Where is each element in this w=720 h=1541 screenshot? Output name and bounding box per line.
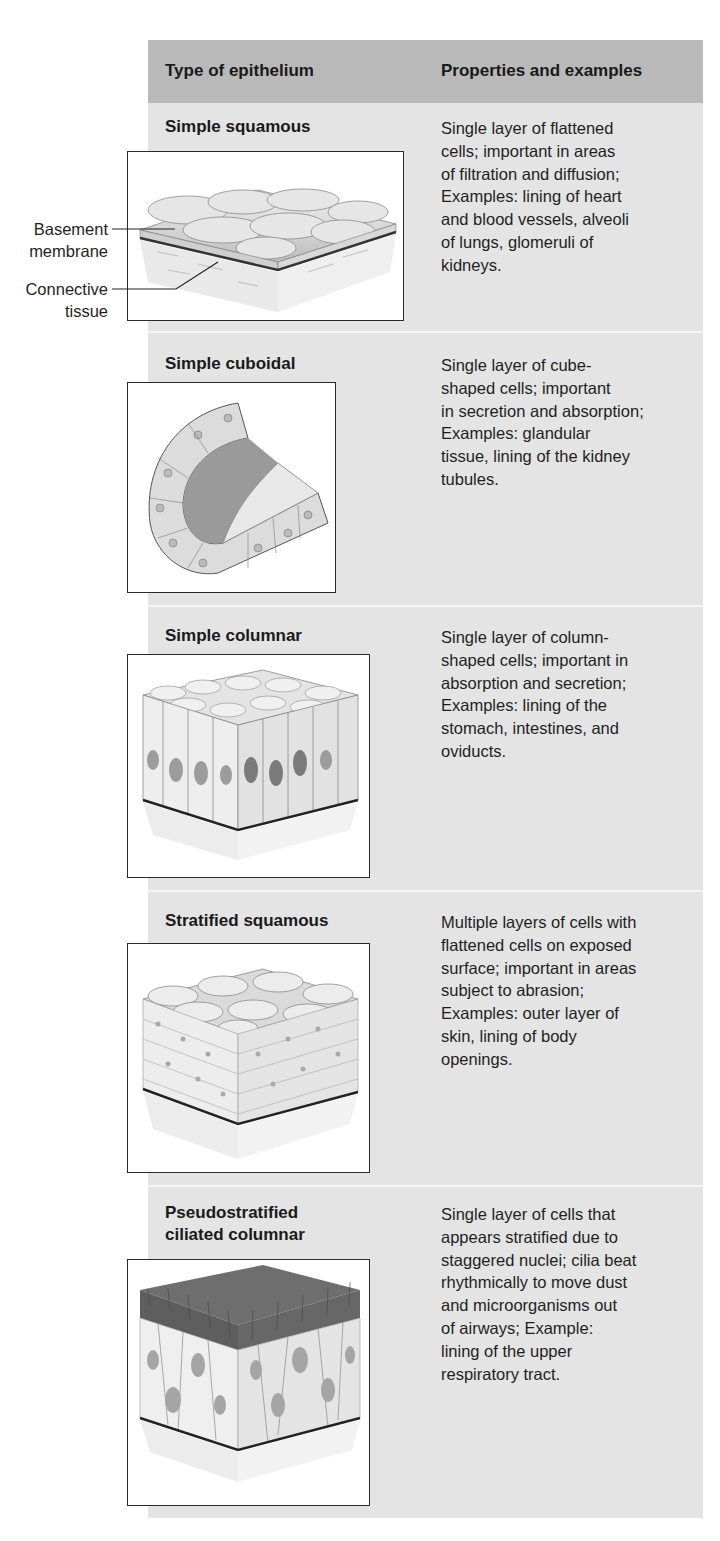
simple-cuboidal-illustration bbox=[127, 382, 336, 593]
row-divider bbox=[148, 605, 703, 607]
row-description-simple-cuboidal: Single layer of cube-shaped cells; impor… bbox=[441, 354, 711, 491]
row-divider bbox=[148, 1185, 703, 1187]
stratified-squamous-illustration bbox=[127, 943, 370, 1173]
row-description-pseudostratified-ciliated-columnar: Single layer of cells thatappears strati… bbox=[441, 1203, 711, 1385]
row-divider bbox=[148, 890, 703, 892]
pseudostratified-illustration bbox=[127, 1259, 370, 1506]
row-title-stratified-squamous: Stratified squamous bbox=[165, 910, 328, 932]
row-description-simple-columnar: Single layer of column-shaped cells; imp… bbox=[441, 626, 711, 763]
row-title-pseudostratified-ciliated-columnar: Pseudostratifiedciliated columnar bbox=[165, 1202, 305, 1246]
row-title-simple-cuboidal: Simple cuboidal bbox=[165, 353, 295, 375]
row-description-stratified-squamous: Multiple layers of cells withflattened c… bbox=[441, 911, 711, 1071]
row-title-simple-columnar: Simple columnar bbox=[165, 625, 302, 647]
simple-columnar-illustration bbox=[127, 654, 370, 878]
callout-leader-lines bbox=[0, 0, 720, 340]
